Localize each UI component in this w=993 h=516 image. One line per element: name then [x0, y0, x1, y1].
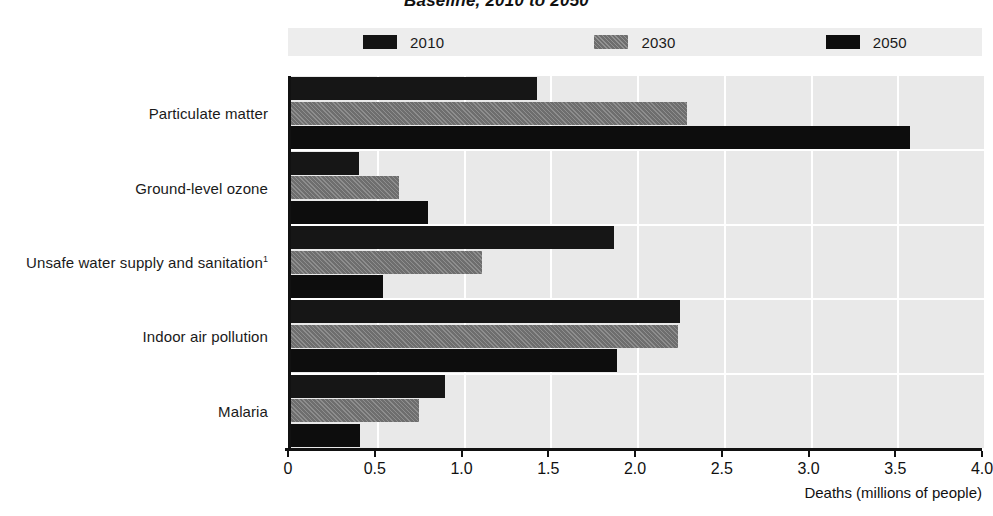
bar — [291, 226, 614, 249]
y-axis-label: Malaria — [218, 402, 268, 419]
x-axis-tick — [547, 451, 549, 457]
x-axis-tick-label: 2.5 — [711, 460, 733, 478]
legend-label-2030: 2030 — [641, 34, 675, 51]
y-axis-label: Particulate matter — [149, 105, 268, 122]
x-axis-tick — [374, 451, 376, 457]
x-axis-tick — [461, 451, 463, 457]
legend-swatch-2030-icon — [594, 35, 628, 49]
chart-plot-wrapper: Particulate matterGround-level ozoneUnsa… — [0, 68, 993, 516]
bar — [291, 77, 537, 100]
plot-area — [288, 76, 985, 448]
bar — [291, 349, 617, 372]
x-axis-tick — [808, 451, 810, 457]
bar — [291, 251, 482, 274]
footnote-marker: 1 — [263, 254, 268, 264]
legend-entry-2010: 2010 — [363, 34, 444, 51]
bar — [291, 176, 399, 199]
bar — [291, 325, 678, 348]
bar — [291, 275, 383, 298]
chart-title: Baseline, 2010 to 2050 — [0, 0, 993, 11]
x-axis-tick — [981, 451, 983, 457]
x-axis-tick — [894, 451, 896, 457]
y-axis-label: Indoor air pollution — [143, 328, 268, 345]
group-separator — [291, 149, 985, 151]
legend-swatch-2050-icon — [826, 35, 860, 49]
x-axis-tick-label: 0.5 — [364, 460, 386, 478]
legend-swatch-2010-icon — [363, 35, 397, 49]
x-axis-tick-label: 0 — [284, 460, 293, 478]
bar — [291, 201, 428, 224]
x-axis-tick-label: 3.0 — [797, 460, 819, 478]
y-axis-category-labels: Particulate matterGround-level ozoneUnsa… — [0, 68, 278, 448]
x-axis-tick-label: 3.5 — [884, 460, 906, 478]
x-axis-tick — [721, 451, 723, 457]
x-axis-title: Deaths (millions of people) — [804, 484, 982, 501]
bar — [291, 300, 680, 323]
legend-entry-2030: 2030 — [594, 34, 675, 51]
bar — [291, 102, 687, 125]
legend-label-2010: 2010 — [410, 34, 444, 51]
x-axis-tick-label: 2.0 — [624, 460, 646, 478]
legend-entry-2050: 2050 — [826, 34, 907, 51]
y-axis-label: Unsafe water supply and sanitation1 — [26, 254, 268, 271]
y-axis-label: Ground-level ozone — [135, 179, 268, 196]
bar — [291, 126, 910, 149]
bar — [291, 152, 359, 175]
x-axis-tick-label: 1.5 — [537, 460, 559, 478]
bar — [291, 424, 360, 447]
chart-legend: 2010 2030 2050 — [288, 28, 982, 56]
x-axis-tick-label: 4.0 — [971, 460, 993, 478]
x-axis-tick-label: 1.0 — [450, 460, 472, 478]
legend-label-2050: 2050 — [873, 34, 907, 51]
gridline — [984, 76, 986, 448]
x-axis-tick — [634, 451, 636, 457]
x-axis-tick — [287, 451, 289, 457]
bar — [291, 375, 445, 398]
bar — [291, 399, 419, 422]
